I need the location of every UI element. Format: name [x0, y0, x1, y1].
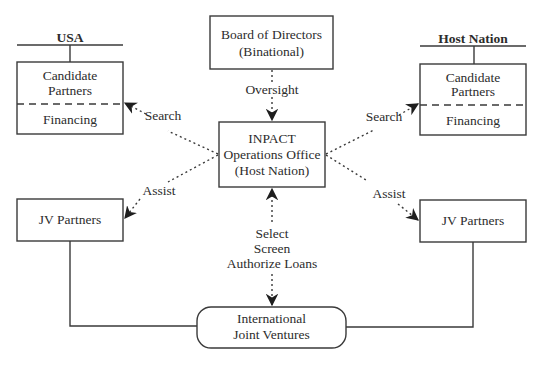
search-right-label: Search: [360, 109, 408, 125]
assist-right-label: Assist: [366, 186, 412, 202]
jv-right-connector: [346, 242, 473, 327]
ops-subtitle: Operations Office: [219, 147, 325, 163]
host-candidate-line2: Partners: [420, 84, 526, 100]
ops-title: INPACT: [219, 131, 325, 147]
host-financing-label: Financing: [420, 113, 526, 129]
usa-label: USA: [17, 30, 123, 46]
screen-label: Screen: [222, 241, 322, 257]
assist-left-label: Assist: [136, 183, 182, 199]
board-title: Board of Directors: [210, 27, 333, 43]
usa-financing-label: Financing: [17, 112, 123, 128]
select-label: Select: [222, 226, 322, 242]
usa-candidate-line1: Candidate: [17, 68, 123, 84]
ijv-line1: International: [197, 311, 346, 327]
ijv-line2: Joint Ventures: [197, 327, 346, 343]
host-nation-label: Host Nation: [420, 31, 526, 47]
assist-right-line: [326, 155, 366, 180]
search-right-line: [326, 130, 374, 154]
jv-left-label: JV Partners: [17, 212, 123, 228]
assist-left-arrow: [125, 199, 140, 218]
ops-location: (Host Nation): [219, 163, 325, 179]
search-left-label: Search: [138, 108, 188, 124]
jv-left-connector: [70, 241, 197, 326]
search-left-line: [168, 131, 218, 154]
board-subtitle: (Binational): [210, 44, 333, 60]
usa-candidate-line2: Partners: [17, 83, 123, 99]
authorize-loans-label: Authorize Loans: [212, 256, 332, 272]
oversight-label: Oversight: [232, 82, 312, 98]
assist-right-arrow: [398, 204, 418, 220]
jv-right-label: JV Partners: [420, 213, 526, 229]
assist-left-line: [168, 155, 218, 182]
